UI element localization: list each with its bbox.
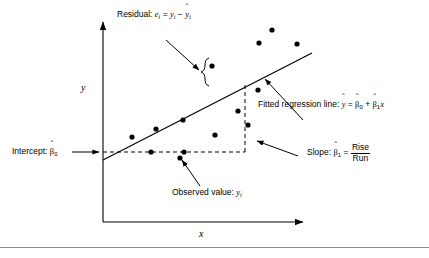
rise-run-triangle [103,82,245,152]
data-point [256,40,261,45]
observed-value-arrow [182,160,200,186]
intercept-label: Intercept: ̂β0 [12,147,58,157]
data-point [209,63,214,68]
data-point [153,126,158,131]
slope-equals: = [341,147,351,157]
fitted-y-symbol: y [342,99,346,109]
residual-label: Residual: ei = yi − ̂yi [117,10,191,20]
residual-y-fitted: y [185,9,189,19]
data-point [245,122,250,127]
data-point [294,41,299,46]
diagram-canvas [0,0,429,258]
data-point [235,108,240,113]
y-axis-label: y [81,82,85,93]
data-point [177,155,182,160]
data-point [129,134,134,139]
data-point [148,149,153,154]
slope-beta1-symbol: β [333,147,337,157]
slope-arrow [257,141,298,156]
residual-brace [201,58,209,86]
x-axis-label: x [199,228,203,239]
fitted-plus: + [363,99,373,109]
fitted-beta0-symbol: β [355,99,359,109]
observed-value-prefix: Observed value: [172,187,236,197]
intercept-beta0-subscript: 0 [54,150,57,157]
intercept-prefix: Intercept: [12,146,50,156]
observed-value-y-subscript: i [240,192,242,198]
residual-prefix: Residual: [117,9,155,19]
data-point [255,87,260,92]
data-points-group [129,27,299,160]
intercept-beta0-symbol: β [50,146,54,156]
regression-diagram-figure: y x Residual: ei = yi − ̂yi Fitted regre… [0,0,429,258]
residual-equals: = [160,9,170,19]
data-point [269,27,274,32]
annotation-arrows [72,40,303,186]
fitted-x-symbol: x [380,99,384,109]
data-point [212,132,217,137]
slope-fraction-denominator: Run [351,154,370,164]
data-point [180,117,185,122]
footer-divider [0,247,429,248]
fitted-line-prefix: Fitted regression line: [258,99,342,109]
residual-minus: − [175,9,185,19]
fitted-regression-line-label: Fitted regression line: ̂y = ̂β0 + ̂β1x [258,100,384,110]
data-point [181,149,186,154]
residual-y-fitted-subscript: i [189,14,191,20]
slope-fraction: RiseRun [351,143,370,163]
fitted-beta1-symbol: β [373,99,377,109]
residual-arrow [166,40,199,70]
fitted-equals: = [345,99,355,109]
slope-label: Slope: ̂β1 = RiseRun [307,143,370,163]
observed-value-label: Observed value: yi [172,188,242,198]
slope-prefix: Slope: [307,147,333,157]
slope-fraction-numerator: Rise [351,143,370,154]
